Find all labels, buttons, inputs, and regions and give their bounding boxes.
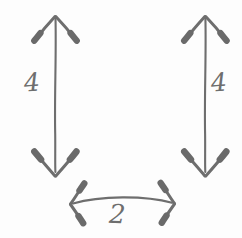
left-arrow-head-top-barb-left-thick xyxy=(34,33,40,41)
dimension-label-left: 4 xyxy=(23,69,41,95)
dimension-sketch-diagram: 4 4 2 xyxy=(0,0,242,238)
left-arrow-shaft xyxy=(55,18,56,172)
right-arrow-head-top-barb-left-thick xyxy=(184,33,190,41)
left-arrow-head-top-barb-right-thick xyxy=(71,33,77,41)
bottom-arrow-head-right-barb-upper-thick xyxy=(161,183,166,190)
right-arrow-shaft xyxy=(205,18,206,172)
bottom-arrow-head-right-barb-lower-thick xyxy=(162,216,167,223)
right-arrow-head-top-barb-right-thick xyxy=(220,33,226,41)
left-arrow-head-bottom-barb-left-thick xyxy=(34,152,41,160)
dimension-label-bottom: 2 xyxy=(109,201,126,228)
bottom-arrow-head-left-barb-upper-thick xyxy=(80,183,85,190)
dimension-label-right: 4 xyxy=(210,69,228,95)
right-arrow-head-bottom-barb-right-thick xyxy=(220,152,226,160)
left-arrow-head-bottom-barb-right-thick xyxy=(70,152,76,160)
bottom-arrow-head-left-barb-lower-thick xyxy=(79,216,84,223)
right-arrow-head-bottom-barb-left-thick xyxy=(184,152,191,160)
